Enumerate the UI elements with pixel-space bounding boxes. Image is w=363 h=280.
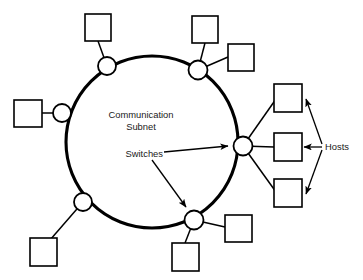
switch-node-bottom-left (74, 193, 92, 211)
switches-arrow-to-right-switch (164, 146, 228, 152)
host-box-top-1 (85, 14, 111, 41)
subnet-label-line1: Communication (108, 109, 173, 120)
switches-label: Switches (125, 148, 163, 159)
network-diagram: Communication Subnet Switches Hosts (0, 0, 363, 280)
host-box-bottom-1 (30, 238, 57, 266)
switch-node-bottom-center (185, 211, 204, 230)
host-box-left-1 (14, 100, 42, 127)
host-box-right-3 (274, 179, 302, 207)
switch-nodes (53, 57, 253, 230)
host-box-right-1 (274, 84, 302, 112)
hosts-arrow-to-top-host (306, 99, 322, 144)
hosts-callouts (304, 99, 322, 194)
host-box-bottom-3 (225, 215, 252, 242)
host-box-top-3 (228, 44, 254, 71)
host-box-bottom-2 (172, 243, 199, 271)
diagram-canvas: Communication Subnet Switches Hosts (0, 0, 363, 280)
switches-arrow-to-bottom-switch (152, 160, 186, 207)
switch-node-top-right (189, 61, 208, 80)
switch-node-left (53, 104, 71, 122)
switch-node-top-left (98, 57, 116, 75)
hosts-arrow-to-bottom-host (306, 150, 322, 194)
host-box-right-2 (274, 133, 302, 161)
hosts-label: Hosts (325, 141, 349, 152)
switch-node-right (234, 137, 253, 156)
host-box-top-2 (192, 16, 218, 43)
subnet-label-line2: Subnet (126, 121, 156, 132)
